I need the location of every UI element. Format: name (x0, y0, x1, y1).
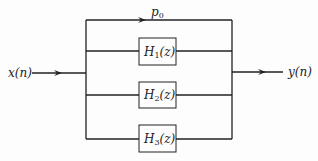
input-label: x(n) (8, 66, 32, 80)
diagram-canvas: x(n) y(n) p0 H1(z) H2(z) H3(z) (0, 0, 318, 161)
block-h2-label: H2(z) (143, 88, 176, 103)
gain-label: p0 (151, 5, 164, 20)
parallel-filter-diagram: x(n) y(n) p0 H1(z) H2(z) H3(z) (0, 0, 318, 161)
block-h1-label: H1(z) (143, 45, 176, 60)
block-h3-label: H3(z) (143, 132, 176, 147)
output-label: y(n) (287, 65, 312, 79)
